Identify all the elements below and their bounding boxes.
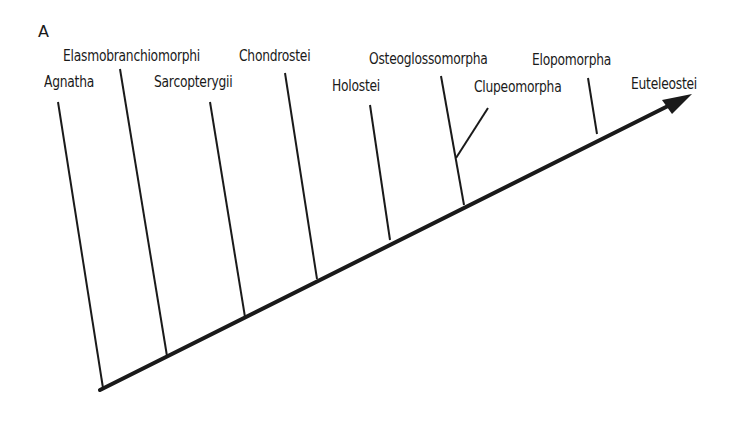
taxon-label-osteoglossomorpha: Osteoglossomorpha (369, 52, 488, 67)
branch-clupeomorpha (456, 108, 488, 158)
panel-label: A (38, 24, 49, 40)
taxon-label-elasmobranchiomorphi: Elasmobranchiomorphi (63, 49, 200, 64)
branch-elasmobranchiomorphi (120, 69, 167, 356)
taxon-label-chondrostei: Chondrostei (239, 49, 310, 64)
taxon-label-sarcopterygii: Sarcopterygii (154, 75, 232, 90)
arrowhead-icon (662, 94, 692, 114)
branch-sarcopterygii (210, 102, 245, 317)
branch-osteoglossomorpha (441, 76, 464, 205)
taxon-label-euteleostei: Euteleostei (631, 77, 697, 92)
cladogram-figure: A Agnatha Elasmobranchiomorphi Sarcopter… (0, 0, 747, 421)
taxon-label-agnatha: Agnatha (44, 75, 94, 90)
branch-agnatha (58, 102, 103, 388)
branch-holostei (370, 105, 390, 240)
branch-elopomorpha (588, 78, 597, 134)
branch-chondrostei (285, 73, 317, 279)
taxon-label-clupeomorpha: Clupeomorpha (474, 80, 561, 95)
main-trunk-line (100, 104, 672, 390)
taxon-label-elopomorpha: Elopomorpha (532, 53, 611, 68)
taxon-label-holostei: Holostei (332, 79, 380, 94)
